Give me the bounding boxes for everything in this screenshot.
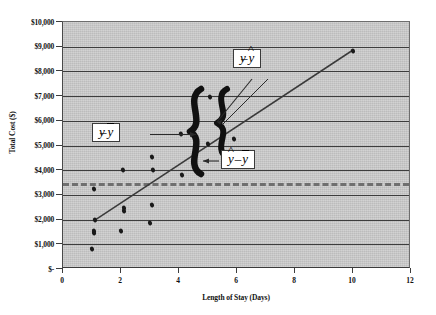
data-point: [91, 186, 96, 192]
data-point: [150, 167, 155, 173]
data-point: [231, 136, 236, 142]
annotation-residual-lhs: y: [240, 51, 246, 65]
annotation-total-rhs: y: [108, 125, 114, 139]
x-tick-mark-8: [294, 268, 295, 273]
data-point: [149, 154, 154, 160]
x-tick-0: 0: [52, 276, 72, 285]
gridline-5000: [63, 146, 409, 147]
data-point: [178, 131, 183, 137]
x-tick-mark-4: [178, 268, 179, 273]
large-brace: [190, 89, 201, 174]
data-point: [91, 228, 96, 234]
x-tick-mark-2: [120, 268, 121, 273]
data-point: [179, 172, 184, 178]
data-point: [121, 205, 126, 211]
gridline-8000: [63, 71, 409, 72]
data-point: [207, 94, 212, 100]
y-tick-9000: $9,000: [2, 42, 54, 51]
x-tick-mark-6: [236, 268, 237, 273]
mean-line-ybar: [63, 183, 409, 186]
x-tick-8: 8: [284, 276, 304, 285]
annotation-explained-rhs: y: [242, 152, 248, 166]
annotation-explained-minus: –: [234, 151, 243, 166]
x-tick-4: 4: [168, 276, 188, 285]
x-axis-title: Length of Stay (Days): [62, 293, 410, 302]
gridline-2000: [63, 220, 409, 221]
y-tick-10000: $10,000: [2, 18, 54, 27]
data-point: [120, 167, 125, 173]
regression-decomposition-chart: $10,000 $9,000 $8,000 $7,000 $6,000 $5,0…: [0, 0, 436, 315]
data-point: [92, 217, 97, 223]
annotation-total-deviation: y–y: [92, 123, 120, 142]
annotation-explained-lhs: y: [228, 152, 234, 166]
gridline-9000: [63, 47, 409, 48]
y-tick-0: $-: [2, 265, 54, 274]
data-point: [118, 228, 123, 234]
x-tick-12: 12: [400, 276, 420, 285]
x-tick-mark-12: [410, 268, 411, 273]
gridline-6000: [63, 121, 409, 122]
data-point: [89, 246, 94, 252]
x-tick-6: 6: [226, 276, 246, 285]
y-tick-8000: $8,000: [2, 67, 54, 76]
annotation-residual: y–y: [233, 49, 261, 68]
y-tick-2000: $2,000: [2, 215, 54, 224]
x-tick-10: 10: [342, 276, 362, 285]
gridline-7000: [63, 96, 409, 97]
annotation-explained: y–y: [221, 150, 255, 169]
gridline-3000: [63, 195, 409, 196]
annotation-residual-rhs: y: [249, 51, 255, 65]
x-tick-mark-10: [352, 268, 353, 273]
annotation-total-lhs: y: [99, 125, 105, 139]
gridline-1000: [63, 244, 409, 245]
y-tick-1000: $1,000: [2, 240, 54, 249]
x-tick-mark-0: [62, 268, 63, 273]
data-point: [149, 202, 154, 208]
y-tick-3000: $3,000: [2, 190, 54, 199]
small-brace: [217, 89, 227, 157]
x-tick-2: 2: [110, 276, 130, 285]
y-axis-title: Total Cost ($): [8, 85, 17, 181]
data-point: [350, 48, 355, 54]
gridline-4000: [63, 170, 409, 171]
